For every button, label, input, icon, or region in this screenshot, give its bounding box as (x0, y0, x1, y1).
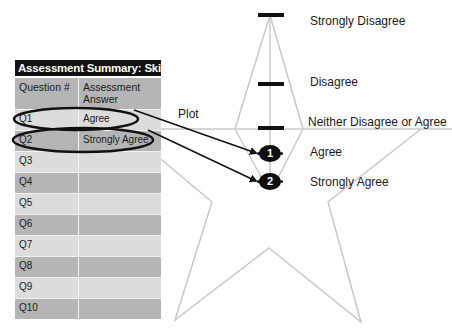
question-cell: Q5 (15, 194, 79, 214)
tick-disagree (258, 82, 284, 86)
question-cell: Q6 (15, 215, 79, 235)
answer-cell (79, 236, 161, 256)
question-cell: Q7 (15, 236, 79, 256)
table-row: Q6 (15, 214, 161, 235)
assessment-summary-table: Assessment Summary: Skills Question # As… (15, 60, 161, 319)
tick-strongly-disagree (258, 13, 284, 17)
question-cell: Q10 (15, 299, 79, 319)
skills-star-diagram: Assessment Summary: Skills Question # As… (0, 0, 452, 334)
table-row: Q10 (15, 298, 161, 319)
table-row: Q1 Agree (15, 109, 161, 130)
question-cell: Q4 (15, 173, 79, 193)
question-cell: Q3 (15, 152, 79, 172)
answer-cell: Agree (79, 110, 161, 130)
star-top-left-edge (235, 15, 270, 129)
table-row: Q4 (15, 172, 161, 193)
answer-cell: Strongly Agree (79, 131, 161, 151)
label-disagree: Disagree (310, 75, 358, 89)
question-cell: Q1 (15, 110, 79, 130)
table-header-row: Question # Assessment Answer (15, 78, 161, 109)
marker-q2: 2 (259, 173, 281, 190)
table-row: Q7 (15, 235, 161, 256)
answer-cell (79, 152, 161, 172)
star-top-right-edge (270, 15, 303, 129)
star-lower-outline (175, 129, 421, 322)
question-cell: Q2 (15, 131, 79, 151)
tick-neither (258, 126, 284, 130)
answer-cell (79, 278, 161, 298)
answer-cell (79, 299, 161, 319)
label-strongly-agree: Strongly Agree (310, 175, 389, 189)
answer-cell (79, 215, 161, 235)
table-row: Q8 (15, 256, 161, 277)
answer-cell (79, 257, 161, 277)
label-strongly-disagree: Strongly Disagree (310, 14, 405, 28)
table-row: Q2 Strongly Agree (15, 130, 161, 151)
plot-label: Plot (178, 107, 199, 121)
marker-q1: 1 (259, 145, 281, 162)
table-title: Assessment Summary: Skills (15, 60, 161, 76)
question-cell: Q9 (15, 278, 79, 298)
label-agree: Agree (310, 145, 342, 159)
header-question: Question # (15, 78, 79, 109)
table-row: Q9 (15, 277, 161, 298)
label-neither: Neither Disagree or Agree (308, 115, 447, 129)
question-cell: Q8 (15, 257, 79, 277)
header-answer: Assessment Answer (79, 78, 161, 109)
table-row: Q3 (15, 151, 161, 172)
answer-cell (79, 194, 161, 214)
table-row: Q5 (15, 193, 161, 214)
answer-cell (79, 173, 161, 193)
